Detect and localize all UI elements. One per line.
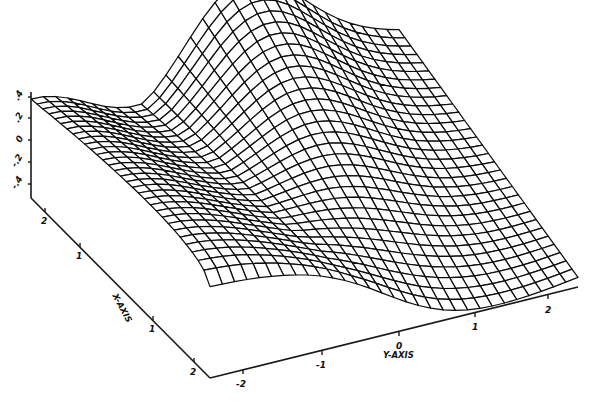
surface-mesh — [31, 0, 578, 310]
y-axis-title: Y-AXIS — [383, 350, 414, 360]
x-axis-ticks: 2 1 1 2 X-AXIS — [41, 208, 196, 377]
x-axis-title: X-AXIS — [110, 291, 134, 324]
z-axis-ticks: .4 .2 0 -.2 -.4 — [9, 89, 31, 191]
z-tick-label: 0 — [14, 134, 26, 144]
y-tick-label: -2 — [236, 379, 246, 389]
y-tick-label: -1 — [316, 360, 326, 370]
z-tick-label: -.2 — [9, 152, 24, 169]
y-axis-ticks: -2 -1 0 1 2 Y-AXIS — [236, 295, 551, 389]
z-tick-label: .4 — [12, 89, 26, 102]
z-tick-label: -.4 — [9, 174, 24, 191]
x-tick-label: 1 — [76, 251, 82, 261]
y-axis-line — [210, 287, 578, 378]
z-tick-label: .2 — [12, 111, 26, 124]
x-tick-label: 2 — [190, 367, 196, 377]
surface-plot: .4 .2 0 -.2 -.4 2 1 1 2 X-AXIS -2 -1 0 1… — [0, 0, 605, 405]
y-tick-label: 2 — [545, 305, 551, 315]
y-tick-label: 1 — [472, 322, 478, 332]
x-tick-label: 1 — [149, 324, 155, 334]
x-tick-label: 2 — [41, 216, 47, 226]
